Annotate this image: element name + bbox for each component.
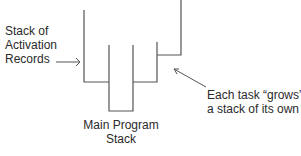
label-line: Each task “grows” [207, 88, 301, 102]
label-line: Stack [82, 132, 160, 146]
main-program-stack-outline [109, 45, 133, 111]
label-line: a stack of its own [207, 102, 301, 116]
task-note-label: Each task “grows” a stack of its own [207, 88, 301, 116]
left-task-stack-outline [84, 10, 109, 82]
label-line: Main Program [82, 118, 160, 132]
arrow-right-icon [56, 58, 80, 66]
right-task-stack-outline [133, 42, 157, 82]
label-line: Activation [5, 38, 57, 52]
label-line: Records [5, 52, 57, 66]
arrow-up-left-icon [174, 69, 206, 87]
label-line: Stack of [5, 24, 57, 38]
activation-records-label: Stack of Activation Records [5, 24, 57, 66]
upper-right-task-stack-outline [157, 0, 181, 55]
main-program-stack-label: Main Program Stack [82, 118, 160, 146]
